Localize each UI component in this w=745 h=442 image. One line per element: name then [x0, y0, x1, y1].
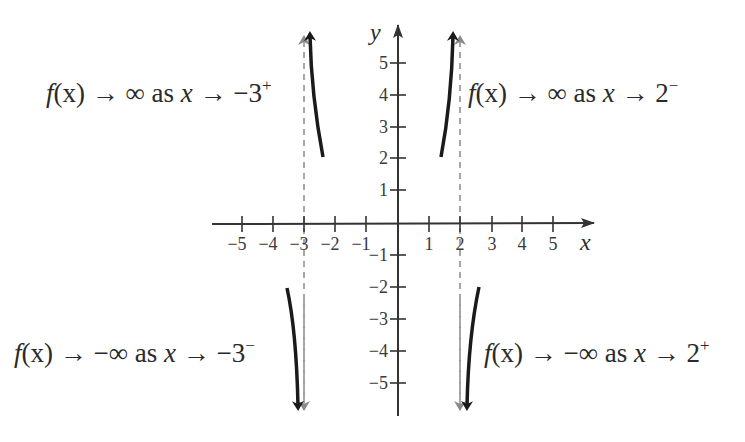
svg-text:−2: −2	[369, 277, 388, 297]
y-axis-label: y	[368, 19, 381, 45]
svg-text:2: 2	[379, 148, 388, 168]
svg-text:−4: −4	[258, 234, 277, 254]
svg-text:−4: −4	[369, 341, 388, 361]
svg-text:3: 3	[379, 117, 388, 137]
svg-text:−1: −1	[369, 245, 388, 265]
svg-text:5: 5	[549, 234, 558, 254]
svg-text:−1: −1	[351, 234, 370, 254]
svg-text:3: 3	[488, 234, 497, 254]
curve-lower-left	[287, 288, 298, 406]
svg-text:1: 1	[379, 180, 388, 200]
svg-text:1: 1	[425, 234, 434, 254]
annotation-top-left: f(x) → ∞ as x → −3+	[46, 78, 272, 109]
svg-text:4: 4	[379, 85, 388, 105]
rational-function-plot: −5 −4 −3 −2 −1 1 2 3 4 5 5 4 3 2 1 −1 −2…	[0, 0, 745, 442]
x-axis-label: x	[579, 229, 591, 255]
svg-text:−3: −3	[369, 309, 388, 329]
svg-text:−2: −2	[320, 234, 339, 254]
svg-text:5: 5	[379, 53, 388, 73]
curve-upper-left	[310, 36, 323, 157]
x-axis	[212, 223, 594, 224]
annotation-bottom-left: f(x) → −∞ as x → −3−	[14, 338, 255, 369]
annotation-bottom-right: f(x) → −∞ as x → 2+	[484, 338, 710, 369]
svg-text:−5: −5	[227, 234, 246, 254]
x-tick-labels: −5 −4 −3 −2 −1 1 2 3 4 5	[227, 234, 557, 254]
curve-lower-right	[467, 287, 479, 406]
svg-text:−5: −5	[369, 373, 388, 393]
svg-text:−3: −3	[289, 234, 308, 254]
svg-text:4: 4	[518, 234, 527, 254]
annotation-top-right: f(x) → ∞ as x → 2−	[468, 78, 678, 109]
curve-upper-right	[441, 36, 453, 157]
svg-text:2: 2	[456, 234, 465, 254]
